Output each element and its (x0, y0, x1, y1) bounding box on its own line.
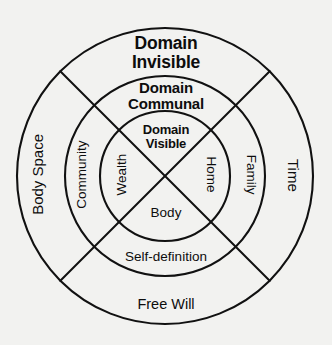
label-home: Home (203, 115, 218, 235)
label-body-space: Body Space (30, 84, 47, 264)
label-self-definition: Self-definition (0, 249, 332, 264)
label-domain-invisible-line1: Domain (0, 34, 332, 53)
label-domain-invisible-line2: Invisible (0, 53, 332, 72)
label-free-will: Free Will (0, 296, 332, 312)
label-time: Time (285, 85, 302, 265)
label-domain-communal: Domain Communal (0, 80, 332, 112)
label-domain-invisible: Domain Invisible (0, 34, 332, 71)
label-domain-visible-line1: Domain (0, 123, 332, 137)
label-family: Family (243, 100, 258, 250)
label-body: Body (0, 205, 332, 220)
label-domain-visible: Domain Visible (0, 123, 332, 151)
label-wealth: Wealth (114, 115, 129, 235)
label-domain-visible-line2: Visible (0, 137, 332, 151)
label-domain-communal-line2: Communal (0, 96, 332, 112)
label-domain-communal-line1: Domain (0, 80, 332, 96)
label-community: Community (74, 100, 89, 250)
concentric-domains-diagram: Domain Invisible Domain Communal Domain … (0, 0, 332, 345)
